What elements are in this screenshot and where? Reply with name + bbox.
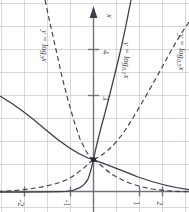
- log-functions-figure: 4 3 -2 -1 1 2 x y = log3x y = log0.1x y …: [0, 0, 189, 212]
- log3-arg: x: [40, 57, 50, 62]
- tick-label-1: 1: [132, 201, 142, 205]
- curve-label-log3: y = log3x: [39, 29, 50, 62]
- common-intersection-point: [91, 157, 96, 162]
- tick-label-neg2: -2: [16, 199, 26, 206]
- x-axis-label: x: [105, 13, 115, 18]
- graph-canvas: 4 3 -2 -1 1 2 x y = log3x y = log0.1x y …: [0, 0, 189, 212]
- tick-label-neg1: -1: [62, 199, 72, 206]
- log01-base: 0.1: [121, 67, 128, 75]
- plot-background: [0, 0, 189, 212]
- tick-label-3: 3: [101, 96, 111, 100]
- log05-arg: x: [177, 66, 187, 71]
- log05-prefix: y = log: [177, 33, 187, 60]
- log01-arg: x: [122, 74, 132, 79]
- svg-text:y = log3x: y = log3x: [39, 29, 50, 62]
- log05-base: 0.5: [176, 59, 183, 67]
- tick-label-2: 2: [155, 201, 165, 205]
- log01-prefix: y = log: [122, 41, 132, 68]
- log3-prefix: y = log: [40, 29, 50, 56]
